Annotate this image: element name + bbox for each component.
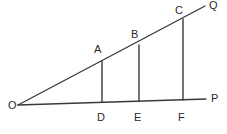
label-point-e: E: [134, 112, 141, 123]
label-point-b: B: [131, 29, 138, 40]
label-point-q: Q: [209, 0, 218, 11]
label-point-d: D: [97, 112, 105, 123]
geometry-canvas: [0, 0, 227, 134]
label-point-f: F: [178, 112, 185, 123]
label-point-p: P: [211, 93, 218, 104]
ray-op: [18, 99, 206, 105]
label-point-c: C: [175, 5, 183, 16]
geometry-figure: O A B C Q D E F P: [0, 0, 227, 134]
label-point-a: A: [94, 44, 101, 55]
label-point-o: O: [8, 100, 17, 111]
ray-oq: [18, 6, 205, 105]
